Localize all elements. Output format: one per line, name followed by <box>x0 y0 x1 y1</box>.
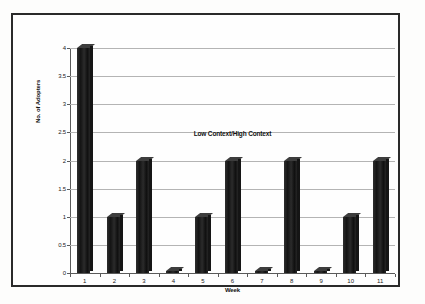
bar-side-face <box>208 215 211 271</box>
x-axis-tick-label: 10 <box>347 278 354 284</box>
bar-side-face <box>120 215 123 271</box>
x-axis-tick-mark <box>159 274 160 277</box>
bar-slot <box>284 48 297 273</box>
y-axis-tick-label: 1.5 <box>58 186 66 192</box>
x-axis-tick-label: 9 <box>319 278 322 284</box>
x-axis-tick-label: 8 <box>290 278 293 284</box>
y-axis-tick-labels: 00.511.522.533.54 <box>41 48 66 273</box>
x-axis-tick-mark <box>218 274 219 277</box>
bar-slot <box>343 48 356 273</box>
y-axis-tick-mark <box>67 161 70 162</box>
bar[interactable] <box>255 271 268 273</box>
chart-annotation: Low Context/High Context <box>70 130 395 137</box>
bar[interactable] <box>373 161 386 274</box>
bar[interactable] <box>225 161 238 274</box>
bar-side-face <box>297 159 300 272</box>
bar-slot <box>166 48 179 273</box>
y-axis-tick-mark <box>67 48 70 49</box>
x-axis-tick-label: 3 <box>142 278 145 284</box>
y-axis-tick-label: 2.5 <box>58 129 66 135</box>
bar[interactable] <box>195 217 208 273</box>
y-axis-tick-label: 1 <box>63 214 66 220</box>
x-axis-tick-mark <box>70 274 71 277</box>
y-axis-tick-label: 3 <box>63 101 66 107</box>
bar-side-face <box>179 269 182 271</box>
x-axis-tick-mark <box>365 274 366 277</box>
bar-slot <box>225 48 238 273</box>
y-axis-tick-mark <box>67 217 70 218</box>
bar[interactable] <box>166 271 179 273</box>
plot-area <box>70 48 395 273</box>
bar-side-face <box>238 159 241 272</box>
x-axis-tick-mark <box>188 274 189 277</box>
bar-slot <box>314 48 327 273</box>
x-axis-tick-label: 7 <box>260 278 263 284</box>
scanned-page: No. of Adopters 00.511.522.533.54 123456… <box>0 0 425 304</box>
y-axis-tick-mark <box>67 273 70 274</box>
x-axis-tick-label: 11 <box>377 278 383 284</box>
bar-slot <box>255 48 268 273</box>
y-axis-tick-label: 0.5 <box>58 242 66 248</box>
x-axis-tick-mark <box>277 274 278 277</box>
bar[interactable] <box>77 48 90 273</box>
bar-slot <box>195 48 208 273</box>
bar-slot <box>107 48 120 273</box>
y-axis-tick-mark <box>67 245 70 246</box>
bar-side-face <box>149 159 152 272</box>
bar-side-face <box>386 159 389 272</box>
x-axis-tick-mark <box>395 274 396 277</box>
x-axis-tick-label: 6 <box>231 278 234 284</box>
bar[interactable] <box>107 217 120 273</box>
y-axis-tick-label: 3.5 <box>58 73 66 79</box>
bar-slot <box>373 48 386 273</box>
y-axis-tick-mark <box>67 132 70 133</box>
x-axis-tick-label: 4 <box>172 278 175 284</box>
x-axis-tick-label: 2 <box>113 278 116 284</box>
x-axis-tick-mark <box>336 274 337 277</box>
x-axis-tick-mark <box>247 274 248 277</box>
bar[interactable] <box>314 271 327 273</box>
x-axis-tick-mark <box>306 274 307 277</box>
y-axis-tick-mark <box>67 76 70 77</box>
bar[interactable] <box>284 161 297 274</box>
bar[interactable] <box>136 161 149 274</box>
y-axis-tick-label: 0 <box>63 270 66 276</box>
x-axis-tick-label: 5 <box>201 278 204 284</box>
y-axis-tick-label: 2 <box>63 158 66 164</box>
x-axis-title: Week <box>70 287 395 293</box>
y-axis-tick-label: 4 <box>63 45 66 51</box>
bar-side-face <box>327 269 330 271</box>
x-axis-tick-label: 1 <box>83 278 86 284</box>
y-axis-tick-mark <box>67 189 70 190</box>
x-axis-tick-mark <box>100 274 101 277</box>
bar-slot <box>136 48 149 273</box>
x-axis-tick-mark <box>129 274 130 277</box>
y-axis-tick-mark <box>67 104 70 105</box>
bar[interactable] <box>343 217 356 273</box>
bar-side-face <box>268 269 271 271</box>
chart-figure-frame: No. of Adopters 00.511.522.533.54 123456… <box>11 13 400 287</box>
bar-slot <box>77 48 90 273</box>
bar-side-face <box>356 215 359 271</box>
bar-side-face <box>90 46 93 271</box>
